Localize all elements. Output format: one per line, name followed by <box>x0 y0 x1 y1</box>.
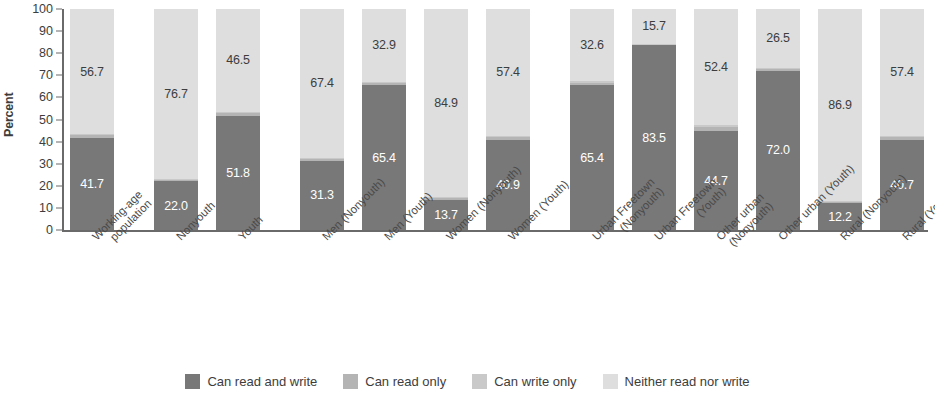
bar-stack: 41.756.7 <box>70 9 114 230</box>
bar-stack: 65.432.6 <box>570 9 614 230</box>
bar-value-label: 41.7 <box>70 177 114 191</box>
bar-value-label: 86.9 <box>818 98 862 112</box>
y-axis-tick-label: 70 <box>39 68 53 82</box>
y-axis-title: Percent <box>2 55 24 175</box>
bar-segment-ro <box>362 83 406 86</box>
y-axis-tick-label: 10 <box>39 201 53 215</box>
y-axis-tick-label: 90 <box>39 24 53 38</box>
bar-value-label: 83.5 <box>632 131 676 145</box>
bar-segment-wo <box>632 44 676 45</box>
bar-value-label: 52.4 <box>694 60 738 74</box>
bar-segment-wo <box>570 81 614 83</box>
legend-swatch-icon <box>185 374 200 389</box>
y-axis-tick-label: 100 <box>32 2 53 16</box>
y-axis-tick-label: 30 <box>39 157 53 171</box>
bar-stack: 31.367.4 <box>300 9 344 230</box>
bar-segment-ro <box>216 113 260 116</box>
bar-segment-ro <box>756 69 800 71</box>
bar-value-label: 57.4 <box>486 65 530 79</box>
y-axis-tick-label: 20 <box>39 179 53 193</box>
bar-value-label: 46.5 <box>216 53 260 67</box>
bar-value-label: 32.6 <box>570 38 614 52</box>
legend: Can read and writeCan read onlyCan write… <box>0 368 935 394</box>
bar-stack: 22.076.7 <box>154 9 198 230</box>
bar-value-label: 65.4 <box>570 151 614 165</box>
bar-segment-ro <box>154 180 198 182</box>
bar-value-label: 72.0 <box>756 143 800 157</box>
y-axis-tick-label: 50 <box>39 113 53 127</box>
y-axis-tick-label: 0 <box>46 223 53 237</box>
legend-item[interactable]: Can write only <box>472 374 576 389</box>
legend-item[interactable]: Neither read nor write <box>603 374 750 389</box>
legend-swatch-icon <box>343 374 358 389</box>
bar-segment-ro <box>300 159 344 161</box>
legend-item[interactable]: Can read only <box>343 374 446 389</box>
bar-segment-ro <box>880 137 924 140</box>
bar-segment-wo <box>216 112 260 113</box>
stacked-bar-chart: Percent 1009080706050403020100 41.756.72… <box>0 0 935 398</box>
bar-stack: 51.846.5 <box>216 9 260 230</box>
legend-item[interactable]: Can read and write <box>185 374 317 389</box>
bar-value-label: 57.4 <box>880 65 924 79</box>
bar-value-label: 32.9 <box>362 38 406 52</box>
bar-value-label: 67.4 <box>300 76 344 90</box>
bar-segment-wo <box>486 136 530 137</box>
bar-value-label: 65.4 <box>362 151 406 165</box>
bar-segment-ro <box>570 83 614 86</box>
bar-segment-wo <box>694 125 738 127</box>
bar-value-label: 51.8 <box>216 166 260 180</box>
bar-segment-wo <box>300 158 344 159</box>
bar-segment-wo <box>362 82 406 83</box>
bar-value-label: 31.3 <box>300 188 344 202</box>
bar-segment-wo <box>880 136 924 137</box>
bar-segment-wo <box>154 179 198 180</box>
bar-value-label: 76.7 <box>154 87 198 101</box>
bar-value-label: 22.0 <box>154 199 198 213</box>
bar-value-label: 26.5 <box>756 31 800 45</box>
bar-segment-wo <box>70 134 114 135</box>
legend-swatch-icon <box>472 374 487 389</box>
bar-segment-ro <box>486 137 530 140</box>
legend-label: Neither read nor write <box>625 374 750 389</box>
y-axis: 1009080706050403020100 <box>24 9 62 230</box>
bar-segment-wo <box>756 68 800 69</box>
y-axis-tick-label: 40 <box>39 135 53 149</box>
bar-segment-ro <box>694 127 738 131</box>
legend-label: Can read and write <box>207 374 317 389</box>
x-axis-category-labels: Working-agepopulationNonyouthYouthMen (N… <box>62 232 928 357</box>
y-axis-tick-label: 80 <box>39 46 53 60</box>
legend-swatch-icon <box>603 374 618 389</box>
legend-label: Can write only <box>494 374 576 389</box>
y-axis-tick-label: 60 <box>39 90 53 104</box>
bar-value-label: 15.7 <box>632 19 676 33</box>
bar-segment-ro <box>70 135 114 137</box>
bar-value-label: 84.9 <box>424 96 468 110</box>
bar-segment-ro <box>632 44 676 45</box>
legend-label: Can read only <box>365 374 446 389</box>
bar-value-label: 56.7 <box>70 65 114 79</box>
